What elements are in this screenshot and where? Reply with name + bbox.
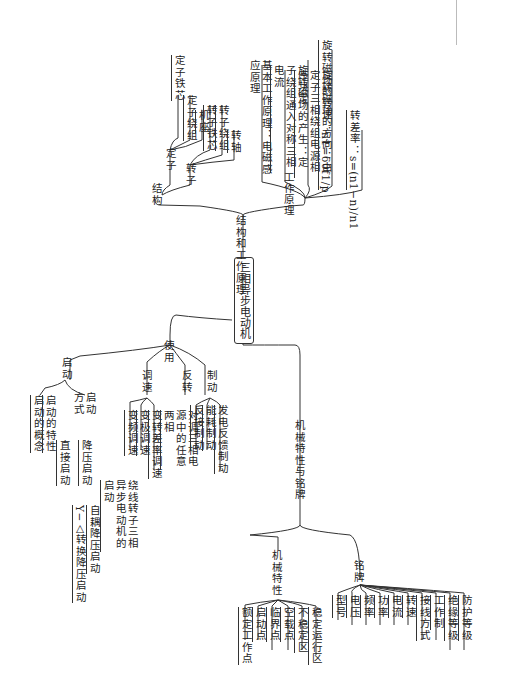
leaf-connection: 接线方式 [416, 595, 430, 641]
branch-structure-principle: 结构和工作原理 [234, 215, 246, 296]
leaf-direct-start: 直接启动 [56, 440, 70, 486]
leaf-unstable-region: 不稳定区 [294, 607, 308, 653]
mind-map: 三相异步电动机 结构和工作原理 结构 定子 转子 定子铁芯 定子绕组 机座 转子… [0, 0, 511, 699]
node-stator: 定子 [164, 148, 176, 171]
node-mechanical-characteristics: 机械特性 [270, 550, 282, 596]
leaf-shaft: 转轴 [227, 130, 241, 153]
leaf-y-delta-start: Y−△转换降压启动 [72, 505, 86, 603]
node-reduced-start: 降压启动 [78, 440, 92, 486]
node-braking: 制动 [205, 370, 217, 393]
leaf-insulation-class: 绝缘等级 [444, 595, 458, 641]
leaf-power: 功率 [374, 595, 388, 618]
leaf-regenerative-brake: 发电反馈制动 [214, 405, 228, 474]
node-speed-control: 调速 [140, 370, 152, 393]
node-start: 启动 [60, 357, 72, 380]
leaf-field-speed: 旋转磁场的转速：n1=60f1/p [318, 40, 332, 190]
node-structure: 结构 [150, 183, 162, 206]
leaf-duty: 工作制 [430, 595, 444, 630]
node-rotor: 转子 [184, 163, 196, 186]
leaf-basic-principle: 基本工作原理：电磁感应原理 [248, 60, 272, 180]
node-nameplate: 铭牌 [352, 560, 364, 583]
leaf-rated-point: 额定工作点 [238, 607, 252, 665]
leaf-current: 电流 [388, 595, 402, 618]
leaf-autotransformer-start: 自耦降压启动 [86, 505, 100, 574]
node-start-methods: 启动方式 [72, 392, 96, 418]
leaf-speed: 转速 [402, 595, 416, 618]
leaf-stable-region: 稳定运行区 [308, 607, 322, 665]
leaf-wound-rotor-start: 绕线转子三相异步电动机的启动 [100, 480, 138, 552]
leaf-frequency: 频率 [360, 595, 374, 618]
leaf-model: 型号 [332, 595, 346, 618]
branch-usage: 使用 [162, 340, 174, 363]
leaf-protection-class: 防护等级 [458, 595, 472, 641]
leaf-voltage: 电压 [346, 595, 360, 618]
leaf-start-characteristic: 启动的特性 [42, 395, 56, 453]
leaf-start-point: 启动点 [252, 607, 266, 642]
branch-mech-nameplate: 机械特性与铭牌 [293, 420, 305, 501]
leaf-no-load-point: 空载点 [280, 607, 294, 642]
node-working-principle: 工作原理 [282, 172, 294, 216]
node-reverse: 反转 [180, 370, 192, 393]
leaf-slip: 转差率：s=(n1−n)/n1 [346, 110, 360, 190]
leaf-critical-point: 临界点 [266, 607, 280, 642]
